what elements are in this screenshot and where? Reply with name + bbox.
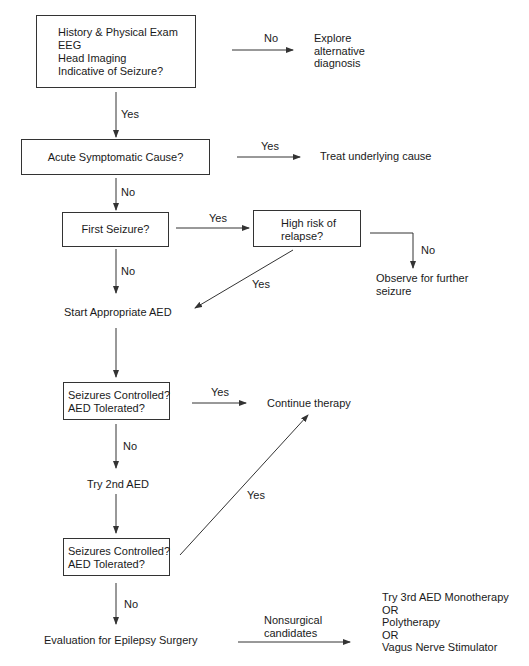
epilepsy-surgery-text: Evaluation for Epilepsy Surgery — [44, 634, 197, 647]
edge-label-no: No — [124, 598, 138, 611]
edge-label-yes: Yes — [252, 278, 270, 291]
edge-label-yes: Yes — [211, 386, 229, 399]
edge-label-nonsurgical: Nonsurgical candidates — [264, 614, 322, 639]
arrow-highrisk-start — [195, 250, 293, 308]
acute-cause-box: Acute Symptomatic Cause? — [21, 139, 210, 175]
edge-label-no: No — [421, 244, 435, 257]
try-2nd-aed-text: Try 2nd AED — [87, 478, 149, 491]
alternative-options-text: Try 3rd AED Monotherapy OR Polytherapy O… — [382, 591, 509, 654]
history-exam-box: History & Physical Exam EEG Head Imaging… — [36, 15, 196, 88]
continue-therapy-text: Continue therapy — [267, 397, 351, 410]
edge-label-yes: Yes — [247, 489, 265, 502]
history-exam-text: History & Physical Exam EEG Head Imaging… — [58, 26, 178, 78]
first-seizure-text: First Seizure? — [82, 223, 150, 236]
edge-label-no: No — [264, 32, 278, 45]
high-risk-relapse-box: High risk of relapse? — [253, 210, 361, 247]
observe-further-text: Observe for further seizure — [376, 272, 468, 297]
arrow-controlled2-continue — [180, 415, 308, 555]
explore-alternative-text: Explore alternative diagnosis — [314, 32, 365, 70]
treat-underlying-text: Treat underlying cause — [320, 150, 432, 163]
edge-label-yes: Yes — [121, 108, 139, 121]
edge-label-no: No — [121, 265, 135, 278]
high-risk-relapse-text: High risk of relapse? — [281, 217, 336, 242]
seizures-controlled-text-2: Seizures Controlled? AED Tolerated? — [68, 545, 170, 570]
edge-label-no: No — [121, 186, 135, 199]
first-seizure-box: First Seizure? — [62, 212, 169, 247]
acute-cause-text: Acute Symptomatic Cause? — [48, 151, 184, 164]
seizures-controlled-box-1: Seizures Controlled? AED Tolerated? — [63, 382, 170, 420]
edge-label-yes: Yes — [261, 140, 279, 153]
seizures-controlled-text-1: Seizures Controlled? AED Tolerated? — [68, 389, 170, 414]
start-aed-text: Start Appropriate AED — [64, 306, 172, 319]
seizures-controlled-box-2: Seizures Controlled? AED Tolerated? — [63, 538, 170, 576]
edge-label-no: No — [123, 440, 137, 453]
arrow-highrisk-observe — [370, 233, 413, 268]
edge-label-yes: Yes — [209, 212, 227, 225]
